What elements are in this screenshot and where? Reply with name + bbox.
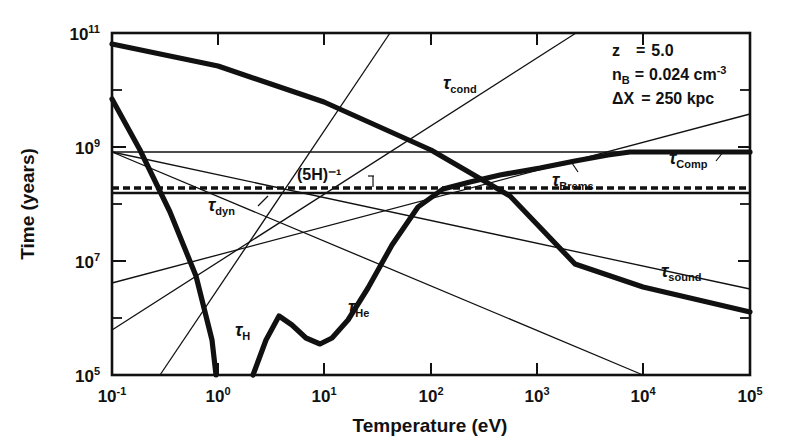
annotation-path-length: ΔX=250 kpc (612, 90, 714, 107)
y-tick-label-1: 105 (75, 365, 100, 386)
x-tick-label-1: 10-1 (98, 385, 127, 406)
annotation-redshift: z=5.0 (612, 42, 674, 59)
y-tick-labels: 105 107 109 1011 (69, 23, 100, 386)
y-tick-label-2: 107 (75, 251, 100, 272)
curve-tau-he-brems (253, 152, 750, 375)
x-tick-labels: 10-1 100 101 102 103 104 105 (98, 385, 763, 406)
leader-tau-dyn (258, 196, 268, 206)
x-axis-title: Temperature (eV) (353, 415, 508, 436)
x-axis-ticks (218, 33, 643, 375)
parameter-annotation: z=5.0 nB=0.024 cm-3 ΔX=250 kpc (612, 42, 726, 107)
timescale-plot: 105 107 109 1011 10-1 100 101 102 103 10… (0, 0, 802, 447)
x-tick-label-4: 102 (418, 385, 443, 406)
curve-tau-h (112, 99, 216, 375)
x-tick-label-2: 100 (205, 385, 230, 406)
y-axis-right-ticks (738, 90, 750, 318)
y-axis-title: Time (years) (17, 148, 38, 260)
curve-label-tau-sound: τsound (661, 261, 701, 283)
y-tick-label-4: 1011 (69, 23, 100, 44)
curve-label-tau-brems: τBrems (552, 170, 594, 192)
figure-container: 105 107 109 1011 10-1 100 101 102 103 10… (0, 0, 802, 447)
curve-label-5h-inverse: (5H)⁻¹ (297, 166, 341, 183)
x-tick-label-5: 103 (524, 385, 549, 406)
curve-label-tau-h: τH (235, 320, 250, 342)
curve-label-tau-cond: τcond (443, 73, 477, 95)
y-axis-minor-ticks (112, 90, 122, 318)
x-tick-label-3: 101 (311, 385, 336, 406)
y-tick-label-3: 109 (75, 137, 100, 158)
x-tick-label-6: 104 (630, 385, 656, 406)
curve-tau-cond-sound (112, 44, 750, 312)
x-tick-label-7: 105 (737, 385, 762, 406)
annotation-baryon-density: nB=0.024 cm-3 (612, 64, 726, 86)
